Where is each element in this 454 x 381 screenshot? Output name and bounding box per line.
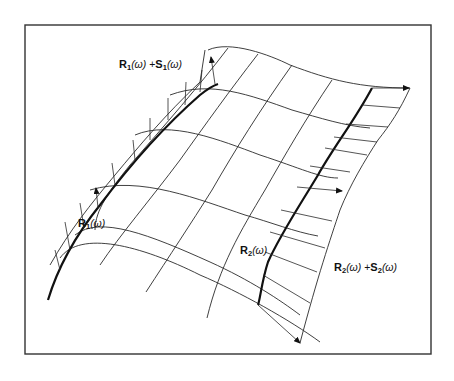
tangent-vectors-s1 xyxy=(55,57,215,270)
surface-grid-w xyxy=(95,48,332,318)
curve-r1 xyxy=(48,84,218,300)
surface-diagram: R1(ω) +S1(ω) R1(ω) R2(ω) R2(ω) +S2(ω) xyxy=(0,0,454,381)
surface-grid-u xyxy=(60,47,410,342)
label-r1: R1(ω) xyxy=(78,217,105,231)
label-r1-plus-s1: R1(ω) +S1(ω) xyxy=(119,58,182,72)
figure-frame xyxy=(25,25,431,354)
label-r2-plus-s2: R2(ω) +S2(ω) xyxy=(334,261,397,275)
label-r2: R2(ω) xyxy=(240,244,267,258)
tangent-vectors-s2 xyxy=(258,88,409,343)
